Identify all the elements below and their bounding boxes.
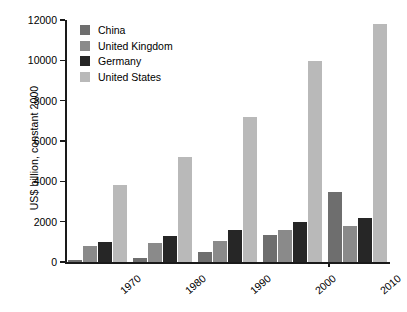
y-axis-line xyxy=(65,20,67,263)
bar xyxy=(133,258,147,262)
x-axis-tick-label: 2000 xyxy=(312,272,338,296)
y-axis-tick xyxy=(60,140,65,142)
legend-item: Germany xyxy=(80,55,173,67)
bar xyxy=(98,242,112,262)
bar xyxy=(68,260,82,262)
bar xyxy=(198,252,212,262)
bar xyxy=(83,246,97,262)
bar xyxy=(228,230,242,262)
chart-legend: ChinaUnited KingdomGermanyUnited States xyxy=(80,24,173,83)
legend-item-label: United Kingdom xyxy=(98,40,173,52)
legend-item-label: China xyxy=(98,24,125,36)
bar xyxy=(328,192,342,262)
bar xyxy=(263,235,277,262)
x-axis-tick-label: 1970 xyxy=(117,272,143,296)
x-axis-tick xyxy=(328,262,330,267)
bar xyxy=(278,230,292,262)
legend-item-label: Germany xyxy=(98,55,141,67)
y-axis-tick-label: 8000 xyxy=(34,95,57,107)
legend-item-label: United States xyxy=(98,71,161,83)
bar xyxy=(373,24,387,262)
legend-item: United States xyxy=(80,71,173,83)
legend-swatch-icon xyxy=(80,72,90,82)
legend-swatch-icon xyxy=(80,25,90,35)
bar xyxy=(148,243,162,262)
y-axis-tick xyxy=(60,181,65,183)
bar xyxy=(308,61,322,262)
y-axis-tick xyxy=(60,60,65,62)
bar xyxy=(213,241,227,262)
bar xyxy=(343,226,357,262)
bar-group xyxy=(198,20,257,262)
bar xyxy=(358,218,372,262)
y-axis-tick-label: 6000 xyxy=(34,135,57,147)
x-axis-tick-label: 1990 xyxy=(247,272,273,296)
y-axis-tick-label: 4000 xyxy=(34,175,57,187)
bar-group xyxy=(328,20,387,262)
bar xyxy=(178,157,192,262)
y-axis-title: US$ billion, constant 2000 xyxy=(28,58,40,238)
legend-item: United Kingdom xyxy=(80,40,173,52)
bar-group xyxy=(263,20,322,262)
y-axis-tick xyxy=(60,221,65,223)
bar xyxy=(243,117,257,262)
y-axis-tick-label: 10000 xyxy=(28,54,57,66)
y-axis-tick xyxy=(60,19,65,21)
y-axis-tick-label: 0 xyxy=(51,256,57,268)
x-axis-tick-label: 2010 xyxy=(377,272,403,296)
legend-item: China xyxy=(80,24,173,36)
y-axis-tick-label: 2000 xyxy=(34,216,57,228)
bar-chart: US$ billion, constant 2000 0200040006000… xyxy=(0,0,407,312)
bar xyxy=(293,222,307,262)
bar xyxy=(163,236,177,262)
y-axis-tick xyxy=(60,261,65,263)
y-axis-tick xyxy=(60,100,65,102)
bar xyxy=(113,185,127,262)
legend-swatch-icon xyxy=(80,56,90,66)
legend-swatch-icon xyxy=(80,41,90,51)
x-axis-tick-label: 1980 xyxy=(182,272,208,296)
y-axis-tick-label: 12000 xyxy=(28,14,57,26)
x-axis-line xyxy=(65,262,390,264)
